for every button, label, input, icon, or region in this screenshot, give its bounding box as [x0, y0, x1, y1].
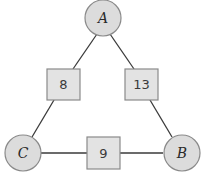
- graph-diagram: 8 13 9 A B C: [0, 0, 203, 177]
- node-label-c: C: [18, 145, 29, 161]
- weight-label-c-b: 9: [99, 146, 107, 161]
- edge-a-b-upper: [110, 34, 134, 69]
- weight-label-a-b: 13: [133, 77, 150, 92]
- weight-box-c-b: 9: [87, 137, 120, 169]
- node-b: B: [164, 135, 200, 171]
- node-c: C: [5, 135, 41, 171]
- node-a: A: [85, 0, 121, 36]
- edge-a-c-lower: [32, 100, 54, 137]
- weight-box-a-c: 8: [47, 69, 80, 100]
- weight-box-a-b: 13: [125, 69, 158, 100]
- edge-a-b-lower: [150, 100, 172, 137]
- weight-label-a-c: 8: [59, 77, 67, 92]
- node-label-b: B: [176, 145, 187, 161]
- node-label-a: A: [96, 10, 108, 26]
- edge-a-c-upper: [73, 34, 97, 69]
